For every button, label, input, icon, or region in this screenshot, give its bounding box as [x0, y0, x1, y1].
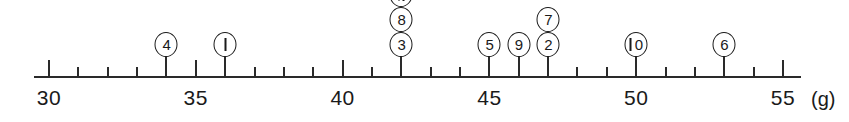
- axis-tick-minor: [254, 67, 256, 76]
- circled-number-marker[interactable]: [214, 32, 237, 57]
- digit-one-stroke: [403, 0, 405, 1]
- marker-digit: 8: [397, 12, 405, 27]
- axis-tick-major: [195, 60, 197, 76]
- circled-number-marker[interactable]: 8: [390, 7, 413, 32]
- axis-tick-minor: [371, 67, 373, 76]
- marker-digit: 2: [544, 37, 552, 52]
- digit-one-stroke: [398, 0, 400, 1]
- axis-tick-minor: [107, 67, 109, 76]
- axis-tick-minor: [459, 67, 461, 76]
- marker-digit: 9: [515, 37, 523, 52]
- axis-tick-label: 55: [771, 87, 795, 108]
- axis-tick-major: [782, 60, 784, 76]
- circled-number-marker[interactable]: 9: [507, 32, 530, 57]
- axis-tick-label: 45: [477, 87, 501, 108]
- circled-number-marker[interactable]: 5: [478, 32, 501, 57]
- axis-tick-minor: [606, 67, 608, 76]
- axis-tick-major: [342, 60, 344, 76]
- marker-stem: [518, 54, 520, 76]
- axis-tick-label: 30: [37, 87, 61, 108]
- circled-number-marker[interactable]: 0: [625, 32, 648, 57]
- marker-stem: [547, 54, 549, 76]
- axis-tick-label: 35: [184, 87, 208, 108]
- axis-tick-major: [48, 60, 50, 76]
- circled-number-marker[interactable]: 3: [390, 32, 413, 57]
- circled-number-marker[interactable]: 4: [155, 32, 178, 57]
- axis-tick-minor: [283, 67, 285, 76]
- marker-digit: 5: [485, 37, 493, 52]
- marker-stem: [488, 54, 490, 76]
- marker-digit: 6: [720, 37, 728, 52]
- circled-number-marker[interactable]: [390, 0, 413, 7]
- marker-digit: 0: [635, 37, 643, 52]
- marker-stem: [635, 54, 637, 76]
- axis-tick-minor: [694, 67, 696, 76]
- number-line-figure: 303540455055 438592706 (g): [0, 0, 849, 122]
- circled-number-marker[interactable]: 7: [537, 7, 560, 32]
- digit-one-stroke: [224, 38, 226, 51]
- axis-tick-minor: [77, 67, 79, 76]
- axis-unit-label: (g): [811, 89, 835, 109]
- marker-stem: [165, 54, 167, 76]
- axis-tick-minor: [430, 67, 432, 76]
- axis-tick-minor: [665, 67, 667, 76]
- axis-tick-minor: [312, 67, 314, 76]
- axis-tick-label: 40: [330, 87, 354, 108]
- marker-stem: [723, 54, 725, 76]
- axis-tick-minor: [136, 67, 138, 76]
- marker-digit: 3: [397, 37, 405, 52]
- marker-stem: [224, 54, 226, 76]
- digit-one-stroke: [630, 38, 632, 51]
- circled-number-marker[interactable]: 6: [713, 32, 736, 57]
- axis-tick-label: 50: [624, 87, 648, 108]
- axis-tick-minor: [753, 67, 755, 76]
- marker-digit: 7: [544, 12, 552, 27]
- axis-tick-minor: [576, 67, 578, 76]
- marker-digit: 4: [163, 37, 171, 52]
- axis-line: [34, 76, 800, 78]
- marker-stem: [400, 54, 402, 76]
- circled-number-marker[interactable]: 2: [537, 32, 560, 57]
